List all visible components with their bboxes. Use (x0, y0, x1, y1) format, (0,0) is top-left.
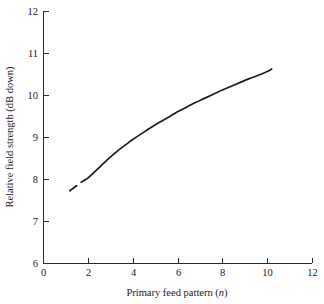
x-tick-label: 2 (86, 267, 91, 278)
data-curve-main (81, 69, 272, 182)
data-curve-lead-segment (70, 186, 77, 191)
x-tick-label: 12 (307, 267, 318, 278)
x-tick-label: 6 (176, 267, 181, 278)
x-tick-label: 10 (262, 267, 273, 278)
y-tick-label: 10 (28, 90, 39, 101)
y-tick-label: 11 (28, 48, 38, 59)
x-tick-label: 0 (41, 267, 46, 278)
x-tick-label: 4 (131, 267, 137, 278)
y-tick-label-group: 6789101112 (28, 6, 39, 269)
x-tick-group (89, 258, 313, 263)
y-tick-label: 9 (33, 132, 38, 143)
y-axis-title: Relative field strength (dB down) (4, 66, 16, 208)
x-tick-label: 8 (220, 267, 225, 278)
x-axis-title: Primary feed pattern (n) (126, 287, 228, 299)
y-tick-label: 6 (33, 258, 38, 269)
y-tick-label: 12 (28, 6, 39, 17)
y-tick-label: 7 (33, 216, 38, 227)
x-tick-label-group: 024681012 (41, 267, 318, 278)
y-tick-group (44, 12, 49, 264)
chart-figure: 6789101112 024681012 Primary feed patter… (0, 0, 324, 304)
plot-area: 6789101112 024681012 Primary feed patter… (0, 0, 324, 304)
y-tick-label: 8 (33, 174, 38, 185)
